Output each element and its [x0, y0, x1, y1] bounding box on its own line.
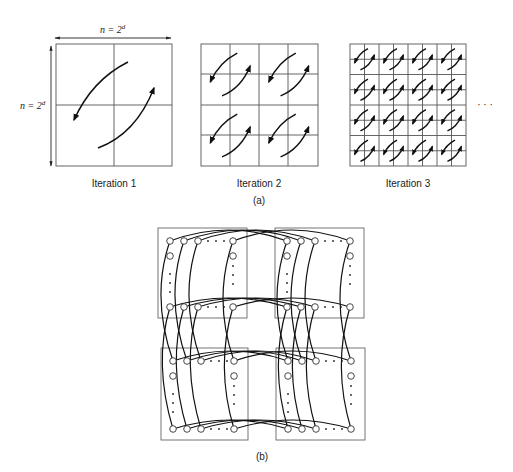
arc-arrow-up-right	[447, 146, 461, 161]
caption-b: (b)	[256, 451, 268, 462]
arc-arrow-down-left	[269, 53, 296, 82]
processor-node	[198, 358, 205, 365]
iteration-3-label: Iteration 3	[386, 178, 431, 189]
processor-node	[347, 253, 354, 260]
arc-arrow-up-right	[360, 55, 374, 70]
processor-node	[231, 358, 238, 365]
processor-node	[170, 426, 177, 433]
processor-node	[298, 238, 305, 245]
arc-arrow-up-right	[281, 127, 309, 157]
arc-arrow-up-right	[222, 127, 250, 157]
arc-arrow-up-right	[418, 116, 432, 131]
arc-arrow-down-left	[384, 140, 397, 154]
arc-arrow-down-left	[355, 140, 368, 154]
dimension-label-top: n = 2d	[100, 23, 126, 35]
arc-arrow-up-right	[389, 146, 403, 161]
arc-arrow-down-left	[442, 110, 455, 124]
arc-arrow-up-right	[418, 85, 432, 100]
processor-node	[184, 358, 191, 365]
processor-node	[167, 253, 174, 260]
arc-arrow-down-left	[210, 114, 237, 143]
arc-arrow-up-right	[447, 55, 461, 70]
processor-node	[313, 426, 320, 433]
dimension-label-left: n = 2d	[20, 99, 46, 111]
iteration-2-grid	[201, 44, 318, 166]
part-b	[158, 228, 365, 440]
iteration-3-grid	[350, 44, 466, 166]
processor-node	[348, 358, 355, 365]
processor-node	[230, 304, 237, 311]
arc-arrow-down-left	[210, 53, 237, 82]
processor-node	[312, 304, 319, 311]
arc-arrow-down-left	[442, 79, 455, 93]
processor-node	[313, 358, 320, 365]
arc-arrow-up-right	[360, 116, 374, 131]
processor-node	[181, 238, 188, 245]
continuation-ellipsis: · · ·	[477, 99, 493, 110]
part-a: n = 2d n = 2d Iteration 1 Iteration 2 (a…	[20, 23, 493, 206]
arc-arrow-up-right	[98, 88, 154, 148]
arc-arrow-down-left	[384, 49, 397, 63]
arc-arrow-down-left	[413, 79, 426, 93]
processor-node	[299, 426, 306, 433]
processor-node	[195, 238, 202, 245]
processor-node	[231, 426, 238, 433]
arc-arrow-down-left	[413, 110, 426, 124]
arc-arrow-down-left	[413, 49, 426, 63]
processor-node	[170, 373, 177, 380]
processor-node	[167, 304, 174, 311]
processor-node	[347, 304, 354, 311]
arc-arrow-up-right	[389, 55, 403, 70]
arc-arrow-up-right	[281, 66, 309, 96]
processor-node	[167, 238, 174, 245]
arc-arrow-up-right	[389, 116, 403, 131]
arc-arrow-down-left	[355, 79, 368, 93]
arc-arrow-up-right	[418, 146, 432, 161]
iteration-1-label: Iteration 1	[92, 178, 137, 189]
arc-arrow-up-right	[447, 116, 461, 131]
processor-node	[285, 373, 292, 380]
processor-node	[298, 304, 305, 311]
processor-node	[195, 304, 202, 311]
processor-node	[230, 253, 237, 260]
arc-arrow-down-left	[442, 140, 455, 154]
arc-arrow-down-left	[74, 62, 128, 120]
arc-arrow-down-left	[355, 49, 368, 63]
processor-node	[348, 373, 355, 380]
arc-arrow-down-left	[269, 114, 296, 143]
processor-node	[285, 358, 292, 365]
diagram-canvas: n = 2d n = 2d Iteration 1 Iteration 2 (a…	[0, 0, 513, 472]
arc-arrow-up-right	[418, 55, 432, 70]
processor-node	[285, 426, 292, 433]
processor-node	[284, 238, 291, 245]
processor-node	[170, 358, 177, 365]
arc-arrow-down-left	[355, 110, 368, 124]
processor-node	[181, 304, 188, 311]
processor-node	[299, 358, 306, 365]
arc-arrow-down-left	[384, 79, 397, 93]
processor-node	[348, 426, 355, 433]
arc-arrow-up-right	[360, 146, 374, 161]
processor-node	[284, 304, 291, 311]
caption-a: (a)	[253, 195, 265, 206]
processor-node	[184, 426, 191, 433]
iteration-1-grid	[56, 44, 172, 166]
arc-arrow-up-right	[222, 66, 250, 96]
arc-arrow-down-left	[413, 140, 426, 154]
arc-arrow-down-left	[384, 110, 397, 124]
arc-arrow-up-right	[360, 85, 374, 100]
arc-arrow-up-right	[389, 85, 403, 100]
processor-node	[230, 238, 237, 245]
arc-arrow-down-left	[442, 49, 455, 63]
processor-node	[198, 426, 205, 433]
processor-node	[312, 238, 319, 245]
iteration-2-label: Iteration 2	[237, 178, 282, 189]
processor-node	[231, 373, 238, 380]
processor-node	[347, 238, 354, 245]
arc-arrow-up-right	[447, 85, 461, 100]
processor-node	[284, 253, 291, 260]
